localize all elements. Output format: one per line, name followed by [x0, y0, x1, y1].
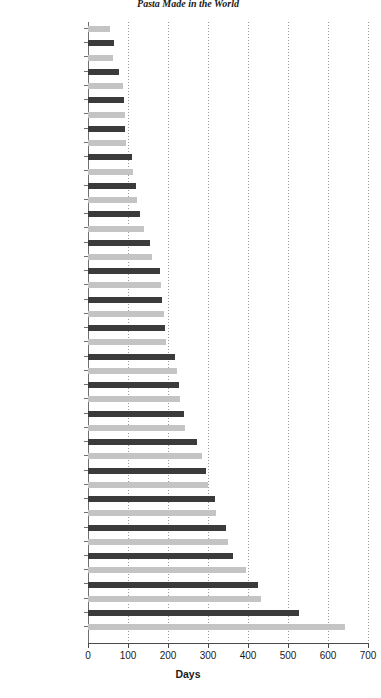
- chart-row: France: [88, 293, 368, 307]
- chart-row: Singapore: [88, 36, 368, 50]
- bar: [88, 268, 160, 274]
- x-tick-label: 500: [268, 650, 308, 661]
- chart-row: Thailand: [88, 350, 368, 364]
- chart-row: Russia: [88, 250, 368, 264]
- chart-row: Indonesia: [88, 378, 368, 392]
- x-tick-label: 200: [148, 650, 188, 661]
- bar: [88, 453, 202, 459]
- bar: [88, 83, 123, 89]
- chart-row: Brazil: [88, 278, 368, 292]
- x-tick-100: [128, 643, 129, 648]
- chart-row: Italy: [88, 620, 368, 634]
- chart-row: Chile: [88, 335, 368, 349]
- chart-row: Sweden: [88, 307, 368, 321]
- bar: [88, 311, 164, 317]
- chart-row: Vietnam: [88, 179, 368, 193]
- bar: [88, 553, 233, 559]
- chart-row: Germany: [88, 236, 368, 250]
- bar: [88, 368, 177, 374]
- x-tick-label: 600: [308, 650, 348, 661]
- bar: [88, 582, 258, 588]
- x-tick-label: 0: [68, 650, 108, 661]
- x-tick-label: 300: [188, 650, 228, 661]
- chart-row: Bangladesh: [88, 435, 368, 449]
- gridline-700: [368, 22, 369, 643]
- plot-area: NetherlandsSingaporeJapanKoreaDenmarkSou…: [88, 22, 368, 643]
- chart-row: Japan: [88, 50, 368, 64]
- chart-row: Argentina: [88, 464, 368, 478]
- x-tick-700: [368, 643, 369, 648]
- bar: [88, 325, 165, 331]
- chart-row: Colombia: [88, 606, 368, 620]
- x-axis-title: Days: [0, 668, 376, 680]
- bar: [88, 211, 140, 217]
- chart-row: China: [88, 264, 368, 278]
- chart-row: Netherlands: [88, 22, 368, 36]
- chart-row: Norway: [88, 107, 368, 121]
- chart-row: Nigeria: [88, 421, 368, 435]
- chart-row: Costa Rica: [88, 549, 368, 563]
- bar: [88, 525, 226, 531]
- bar: [88, 254, 152, 260]
- chart-row: Malaysia: [88, 122, 368, 136]
- bar: [88, 240, 150, 246]
- chart-row: Venezuela: [88, 535, 368, 549]
- chart-row: Kuwait: [88, 521, 368, 535]
- chart-row: Austria: [88, 577, 368, 591]
- bar: [88, 382, 179, 388]
- x-tick-500: [288, 643, 289, 648]
- x-tick-0: [88, 643, 89, 648]
- bar: [88, 510, 216, 516]
- chart-row: Honduras: [88, 392, 368, 406]
- x-axis-line: [88, 643, 369, 644]
- chart-row: Ecuador: [88, 506, 368, 520]
- bar: [88, 539, 228, 545]
- bar: [88, 140, 126, 146]
- chart-row: United Kingdom: [88, 136, 368, 150]
- bar: [88, 97, 124, 103]
- chart-row: Turkey: [88, 150, 368, 164]
- bar: [88, 26, 110, 32]
- bar: [88, 439, 197, 445]
- bar: [88, 112, 125, 118]
- bar: [88, 126, 125, 132]
- chart-title: Pasta Made in the World: [0, 0, 376, 7]
- chart-row: Trinidad: [88, 321, 368, 335]
- bar: [88, 482, 208, 488]
- x-tick-label: 700: [348, 650, 381, 661]
- bar: [88, 396, 180, 402]
- chart-row: South Africa: [88, 93, 368, 107]
- chart-row: Switzerland: [88, 364, 368, 378]
- chart-row: Israel: [88, 478, 368, 492]
- bar: [88, 55, 113, 61]
- bar: [88, 282, 161, 288]
- bar: [88, 40, 114, 46]
- bar: [88, 297, 162, 303]
- bar: [88, 411, 184, 417]
- bar: [88, 496, 215, 502]
- chart-row: Canada: [88, 563, 368, 577]
- chart-row: Denmark: [88, 79, 368, 93]
- bar: [88, 354, 175, 360]
- chart-row: Finland: [88, 407, 368, 421]
- x-tick-400: [248, 643, 249, 648]
- bar: [88, 624, 345, 630]
- chart-row: Spain: [88, 221, 368, 235]
- chart-row: India: [88, 164, 368, 178]
- bar: [88, 596, 261, 602]
- bar: [88, 610, 299, 616]
- bar: [88, 154, 132, 160]
- chart-row: Australia: [88, 492, 368, 506]
- chart-row: Korea: [88, 65, 368, 79]
- bar: [88, 183, 136, 189]
- bar: [88, 425, 185, 431]
- x-tick-label: 400: [228, 650, 268, 661]
- x-tick-label: 100: [108, 650, 148, 661]
- x-tick-300: [208, 643, 209, 648]
- bar: [88, 567, 246, 573]
- bar: [88, 339, 166, 345]
- bar: [88, 226, 144, 232]
- bar: [88, 169, 133, 175]
- chart-row: Belgium: [88, 193, 368, 207]
